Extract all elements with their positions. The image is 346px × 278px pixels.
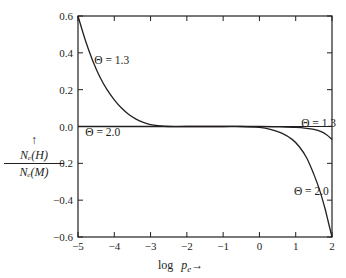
x-tick-label: −3 xyxy=(145,240,157,252)
x-axis-label: logpe→ xyxy=(158,258,203,274)
curve-theta-1-3 xyxy=(78,16,332,139)
y-axis-label: ↑ Nₑ(H) Nₑ(M) xyxy=(4,134,64,178)
x-tick-label: −5 xyxy=(72,240,84,252)
y-tick-label: −0.4 xyxy=(53,194,73,206)
y-label-denominator: Nₑ(M) xyxy=(4,164,64,178)
curve-label: Θ = 1.3 xyxy=(94,54,129,66)
x-tick-label: 1 xyxy=(293,240,299,252)
y-tick-label: 0.0 xyxy=(59,121,73,133)
y-tick-label: 0.2 xyxy=(59,84,73,96)
curve-label: Θ = 1.3 xyxy=(301,117,336,129)
curve-label: Θ = 2.0 xyxy=(294,185,329,197)
curve-label: Θ = 2.0 xyxy=(85,126,120,138)
x-tick-label: 0 xyxy=(257,240,263,252)
y-tick-label: 0.4 xyxy=(59,47,73,59)
x-tick-label: −1 xyxy=(217,240,229,252)
x-tick-label: −4 xyxy=(108,240,120,252)
curve-annotations: Θ = 1.3Θ = 2.0Θ = 1.3Θ = 2.0 xyxy=(85,54,336,197)
y-label-numerator: Nₑ(H) xyxy=(4,149,64,164)
x-label-prefix: log xyxy=(158,258,173,272)
x-tick-label: −2 xyxy=(181,240,193,252)
y-tick-label: −0.6 xyxy=(53,231,73,243)
y-tick-label: 0.6 xyxy=(59,10,73,22)
right-arrow-icon: → xyxy=(191,258,203,272)
curve-theta-2-0 xyxy=(78,126,332,237)
x-tick-label: 2 xyxy=(329,240,335,252)
up-arrow-icon: ↑ xyxy=(4,134,64,146)
